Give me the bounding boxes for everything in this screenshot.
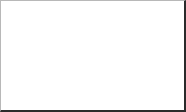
plot-area: 0 z1 z bbox=[3, 3, 183, 109]
z1-label: z1 bbox=[119, 82, 127, 95]
y-axis-arrowhead-icon bbox=[87, 5, 93, 13]
shaded-area-under-curve bbox=[5, 27, 113, 80]
normal-distribution-figure: 0 z1 z bbox=[0, 0, 186, 112]
z1-label-subscript: 1 bbox=[123, 86, 127, 95]
x-axis-label: z bbox=[169, 82, 174, 94]
origin-label: 0 bbox=[82, 81, 88, 93]
distribution-plot-svg bbox=[3, 3, 183, 109]
